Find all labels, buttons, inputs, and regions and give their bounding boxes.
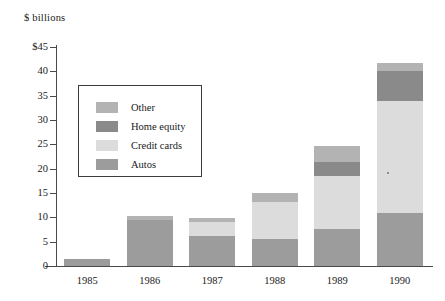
x-tick-label-1987: 1987 — [177, 275, 247, 286]
bar-segment — [189, 236, 235, 266]
x-tick-label-1990: 1990 — [365, 275, 435, 286]
legend-swatch-icon — [96, 140, 118, 151]
bar-group-1989 — [314, 47, 360, 266]
legend-item-autos[interactable]: Autos — [96, 156, 156, 172]
bar-segment — [127, 220, 173, 266]
y-tick-label: 0 — [6, 261, 48, 271]
y-tick-label: $45 — [6, 42, 48, 52]
bar-segment — [252, 202, 298, 239]
bar-segment — [127, 216, 173, 220]
legend-item-home-equity[interactable]: Home equity — [96, 118, 186, 134]
x-tick-label-1985: 1985 — [52, 275, 122, 286]
bar-segment — [377, 213, 423, 266]
bar-group-1990 — [377, 47, 423, 266]
bar-segment — [377, 63, 423, 72]
legend-item-credit-cards[interactable]: Credit cards — [96, 137, 182, 153]
legend-label: Autos — [131, 159, 156, 170]
y-tick-label: 40 — [6, 66, 48, 76]
bar-segment — [189, 222, 235, 236]
y-tick-mark — [50, 266, 56, 267]
stacked-bar-chart: $ billions 0510152025303540$45 198519861… — [0, 0, 445, 301]
legend-swatch-icon — [96, 121, 118, 132]
legend-label: Credit cards — [131, 140, 182, 151]
legend-swatch-icon — [96, 159, 118, 170]
y-tick-label: 35 — [6, 91, 48, 101]
axis-unit-title: $ billions — [24, 12, 65, 23]
bar-segment — [377, 71, 423, 100]
y-tick-label: 15 — [6, 188, 48, 198]
bar-segment — [252, 193, 298, 202]
y-tick-label: 30 — [6, 115, 48, 125]
y-tick-label: 25 — [6, 139, 48, 149]
y-tick-label: 20 — [6, 164, 48, 174]
y-tick-label: 10 — [6, 212, 48, 222]
x-tick-label-1989: 1989 — [302, 275, 372, 286]
legend-swatch-icon — [96, 102, 118, 113]
bar-segment — [314, 176, 360, 229]
bar-segment — [189, 218, 235, 222]
bar-group-1988 — [252, 47, 298, 266]
x-tick-label-1986: 1986 — [115, 275, 185, 286]
bar-segment — [314, 229, 360, 266]
bar-segment — [252, 239, 298, 266]
x-tick-label-1988: 1988 — [240, 275, 310, 286]
x-axis-line — [45, 266, 433, 267]
bar-segment — [64, 259, 110, 266]
legend-label: Home equity — [131, 121, 186, 132]
bar-segment — [314, 146, 360, 162]
bar-segment — [314, 162, 360, 176]
scan-artifact-speck — [387, 172, 389, 174]
chart-legend: OtherHome equityCredit cardsAutos — [78, 85, 202, 177]
bar-segment — [377, 101, 423, 214]
y-tick-label: 5 — [6, 237, 48, 247]
legend-item-other[interactable]: Other — [96, 99, 155, 115]
legend-label: Other — [131, 102, 155, 113]
